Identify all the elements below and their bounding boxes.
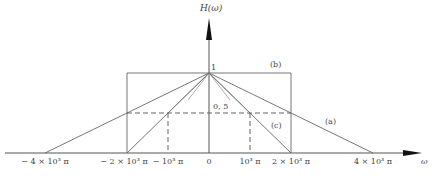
x-tick-label: 10³ π — [239, 157, 260, 166]
x-tick-label: − 10³ π — [153, 157, 183, 166]
x-tick-label: − 2 × 10³ π — [100, 157, 147, 166]
x-axis-label: ω — [421, 157, 428, 166]
y-axis-label: H(ω) — [200, 3, 222, 13]
peak-label: 1 — [211, 63, 216, 72]
fan-line — [188, 73, 209, 100]
fan-line — [209, 73, 230, 100]
x-tick-label: − 4 × 10³ π — [21, 157, 68, 166]
fan-line — [168, 73, 209, 113]
x-tick-label: 4 × 10³ π — [354, 157, 392, 166]
x-axis-arrow-icon — [403, 150, 422, 156]
curve-b-label: (b) — [270, 60, 281, 69]
curve-c-label: (c) — [271, 121, 282, 130]
x-tick-label: 0 — [206, 157, 211, 166]
half-level-label: 0, 5 — [213, 102, 228, 111]
y-axis-arrow-icon — [206, 18, 212, 40]
curve-a-label: (a) — [325, 117, 336, 126]
x-tick-label: 2 × 10³ π — [272, 157, 310, 166]
